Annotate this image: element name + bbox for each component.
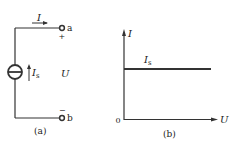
line-label: Is: [143, 54, 152, 67]
terminal-b-icon: [60, 116, 65, 121]
source-label: Is: [31, 67, 40, 80]
plus-sign: +: [59, 32, 66, 41]
terminal-b-label: b: [67, 113, 73, 123]
terminal-a-label: a: [67, 23, 73, 33]
caption-b: (b): [163, 129, 176, 139]
chart-panel-b: [122, 29, 218, 122]
circuit-panel-a: [8, 21, 64, 120]
origin-label: 0: [116, 116, 121, 125]
y-axis-label: I: [127, 28, 133, 39]
x-axis-arrow-icon: [211, 118, 218, 122]
caption-a: (a): [34, 126, 46, 136]
diagram-canvas: I a + b − Is U (a) I U 0 Is (b): [0, 0, 230, 143]
source-arrowhead-icon: [27, 64, 31, 69]
y-axis-arrow-icon: [122, 29, 126, 36]
source-label-sub: s: [36, 72, 40, 80]
current-arrowhead-icon: [43, 21, 48, 25]
minus-sign: −: [59, 106, 66, 115]
current-label: I: [36, 12, 42, 23]
line-label-sub: s: [148, 59, 152, 67]
terminal-a-icon: [60, 26, 65, 31]
voltage-label: U: [61, 68, 70, 79]
x-axis-label: U: [220, 114, 229, 125]
